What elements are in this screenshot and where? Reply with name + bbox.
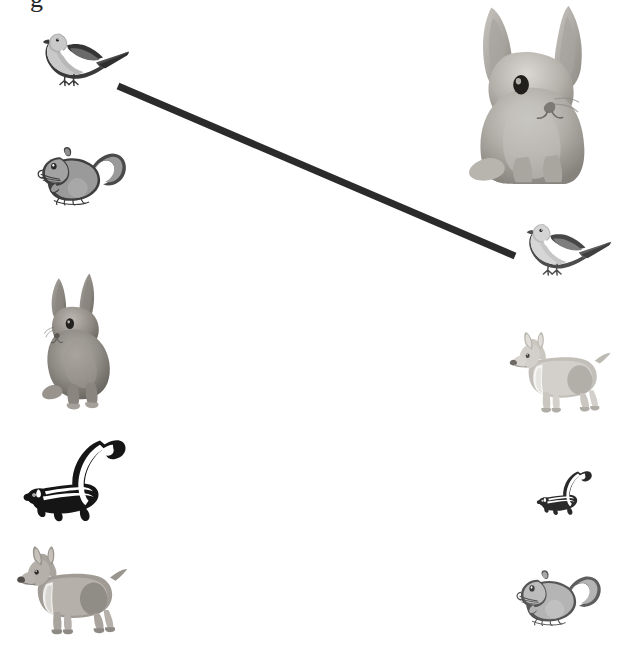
skunk-right-image[interactable]: [536, 464, 592, 516]
clipped-top-text: g: [30, 0, 44, 14]
worksheet-canvas: g: [0, 0, 624, 661]
rabbit-left-image[interactable]: [32, 270, 128, 410]
skunk-left-image[interactable]: [22, 427, 126, 523]
squirrel-left-image[interactable]: [28, 133, 130, 211]
squirrel-right-image[interactable]: [508, 556, 604, 632]
dog-right-image[interactable]: [506, 330, 614, 414]
pigeon-right-image[interactable]: [514, 212, 612, 288]
pigeon-left-image[interactable]: [30, 22, 130, 98]
dog-left-image[interactable]: [14, 544, 130, 636]
rabbit-right-image[interactable]: [461, 4, 611, 184]
